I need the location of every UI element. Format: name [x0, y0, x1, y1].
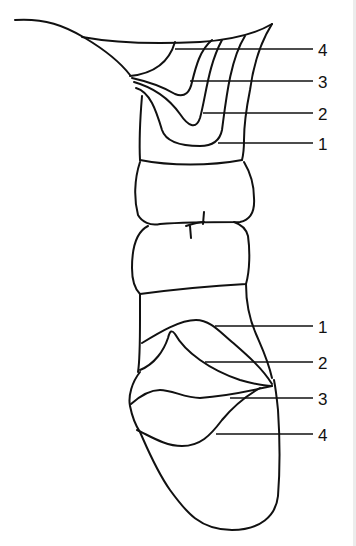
bottom-layer-3-curve: [131, 386, 272, 404]
label-bottom-1: 1: [318, 318, 327, 337]
label-bottom-4: 4: [318, 426, 327, 445]
diagram-svg: 4 3 2 1 1 2 3 4: [0, 0, 356, 546]
bottom-bulb-outline: [129, 372, 279, 530]
label-bottom-3: 3: [318, 390, 327, 409]
label-top-2: 2: [318, 105, 327, 124]
label-bottom-2: 2: [318, 354, 327, 373]
top-layer-1-curve: [136, 36, 245, 146]
bottom-layer-4-curve: [137, 388, 260, 446]
segment-1-bottom: [140, 160, 242, 165]
top-layer-4-curve: [130, 42, 175, 76]
label-top-4: 4: [318, 41, 327, 60]
label-top-3: 3: [318, 73, 327, 92]
crack-mark-lower: [190, 226, 191, 238]
segment-2: [135, 162, 254, 225]
segment-4-left: [138, 318, 140, 372]
top-fold-right-edge: [244, 24, 272, 140]
label-top-1: 1: [318, 135, 327, 154]
segment-1-left: [140, 96, 142, 160]
diagram-canvas: 4 3 2 1 1 2 3 4: [0, 0, 356, 546]
segment-4-right: [246, 284, 272, 378]
bottom-layer-2-curve: [140, 331, 272, 386]
top-fold-outer-curve: [15, 20, 130, 75]
